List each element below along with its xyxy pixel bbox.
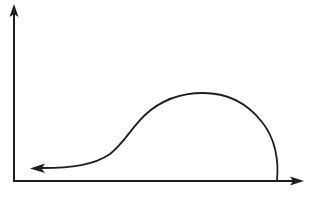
diagram-canvas	[0, 0, 322, 197]
curve	[30, 93, 277, 180]
y-axis	[10, 4, 19, 181]
diagram-svg	[0, 0, 322, 197]
x-axis	[13, 177, 304, 186]
